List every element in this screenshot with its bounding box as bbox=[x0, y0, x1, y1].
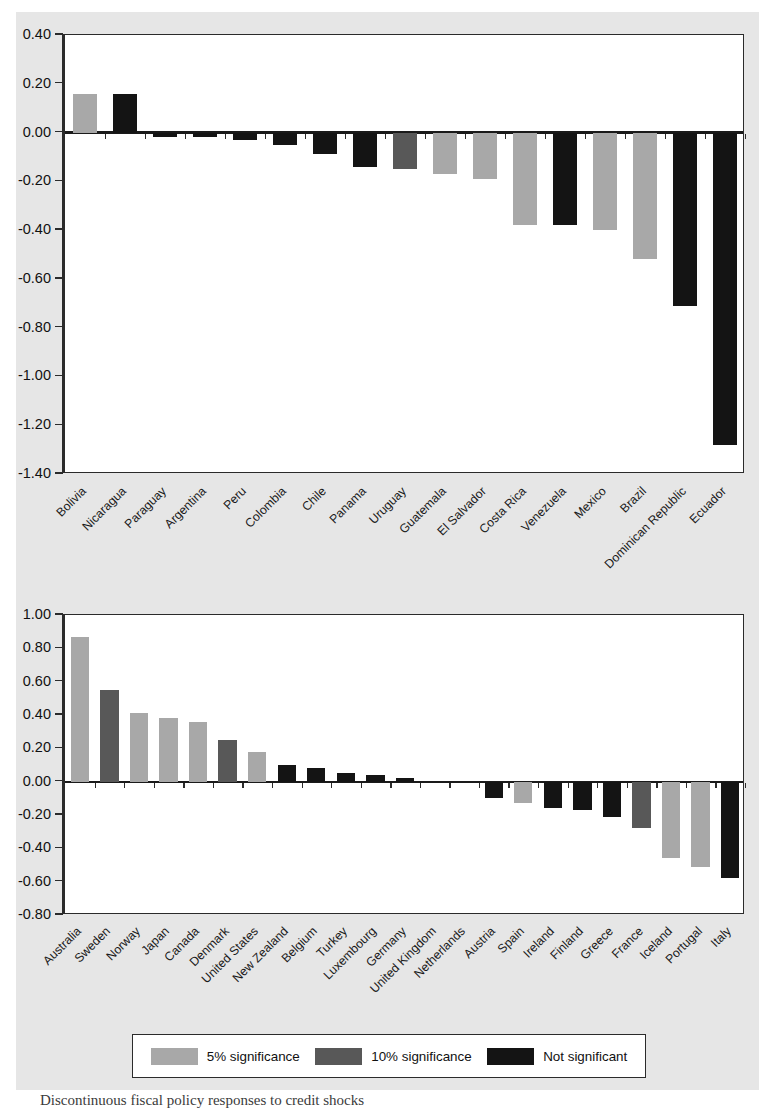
legend-swatch-nosig bbox=[487, 1048, 534, 1065]
y-tick-mark bbox=[55, 847, 63, 848]
chart-panel-developed: Developed countries 1.000.800.600.400.20… bbox=[16, 602, 759, 1004]
y-tick-mark bbox=[55, 647, 63, 648]
bar-new-zealand bbox=[278, 765, 296, 782]
bar-australia bbox=[71, 637, 89, 782]
bar-austria bbox=[485, 782, 503, 799]
y-axis-spine bbox=[62, 614, 64, 914]
y-tick-label: 0.20 bbox=[23, 739, 51, 755]
x-axis-label-netherlands: Netherlands bbox=[34, 924, 468, 1111]
y-tick-label: -0.60 bbox=[18, 270, 51, 286]
x-minor-tick bbox=[745, 783, 746, 788]
x-minor-tick bbox=[145, 134, 146, 139]
bar-finland bbox=[573, 782, 591, 810]
legend-label-sig5: 5% significance bbox=[207, 1049, 300, 1064]
bar-argentina bbox=[193, 133, 218, 138]
bar-ecuador bbox=[713, 133, 738, 445]
bar-turkey bbox=[337, 773, 355, 781]
y-tick-mark bbox=[55, 613, 63, 614]
bar-japan bbox=[159, 718, 177, 781]
bar-united-states bbox=[248, 752, 266, 782]
y-tick-mark bbox=[55, 880, 63, 881]
y-tick-label: 0.40 bbox=[23, 706, 51, 722]
y-tick-mark bbox=[55, 33, 63, 34]
bar-iceland bbox=[662, 782, 680, 859]
x-axis-label-iceland: Iceland bbox=[241, 924, 675, 1111]
y-tick-mark bbox=[55, 747, 63, 748]
bar-el-salvador bbox=[473, 133, 498, 179]
x-minor-tick bbox=[665, 134, 666, 139]
x-minor-tick bbox=[331, 783, 332, 788]
bar-sweden bbox=[100, 690, 118, 782]
y-tick-label: 0.20 bbox=[23, 75, 51, 91]
y-tick-mark bbox=[55, 375, 63, 376]
x-minor-tick bbox=[95, 783, 96, 788]
x-minor-tick bbox=[625, 134, 626, 139]
x-minor-tick bbox=[505, 134, 506, 139]
bar-denmark bbox=[218, 740, 236, 782]
legend-label-nosig: Not significant bbox=[543, 1049, 627, 1064]
x-axis-label-italy: Italy bbox=[300, 924, 734, 1111]
figure-container: LAC 0.400.200.00-0.20-0.40-0.60-0.80-1.0… bbox=[16, 12, 759, 1090]
y-tick-mark bbox=[55, 424, 63, 425]
x-axis-label-greece: Greece bbox=[182, 924, 616, 1111]
x-axis-label-new-zealand: New Zealand bbox=[0, 924, 291, 1111]
bar-guatemala bbox=[433, 133, 458, 174]
bar-paraguay bbox=[153, 133, 178, 138]
x-minor-tick bbox=[449, 783, 450, 788]
x-axis-label-ireland: Ireland bbox=[123, 924, 557, 1111]
y-tick-label: 0.00 bbox=[23, 773, 51, 789]
bar-uruguay bbox=[393, 133, 418, 170]
x-minor-tick bbox=[597, 783, 598, 788]
legend-item-sig5: 5% significance bbox=[151, 1048, 300, 1065]
y-tick-label: 0.60 bbox=[23, 673, 51, 689]
figure-caption: Discontinuous fiscal policy responses to… bbox=[40, 1092, 740, 1111]
bar-greece bbox=[603, 782, 621, 817]
x-minor-tick bbox=[545, 134, 546, 139]
legend-label-sig10: 10% significance bbox=[371, 1049, 472, 1064]
bar-panama bbox=[353, 133, 378, 167]
y-tick-mark bbox=[55, 82, 63, 83]
bar-norway bbox=[130, 713, 148, 781]
y-tick-label: -1.20 bbox=[18, 416, 51, 432]
x-minor-tick bbox=[745, 134, 746, 139]
bar-dominican-republic bbox=[673, 133, 698, 306]
y-tick-mark bbox=[55, 813, 63, 814]
x-axis-label-japan: Japan bbox=[0, 924, 172, 1111]
y-tick-label: 0.80 bbox=[23, 639, 51, 655]
bar-nicaragua bbox=[113, 94, 138, 133]
x-minor-tick bbox=[272, 783, 273, 788]
x-minor-tick bbox=[305, 134, 306, 139]
y-tick-label: -0.80 bbox=[18, 906, 51, 922]
y-tick-mark bbox=[55, 277, 63, 278]
bar-peru bbox=[233, 133, 258, 140]
plot-area-lac bbox=[64, 34, 744, 473]
y-tick-label: -0.60 bbox=[18, 873, 51, 889]
x-axis-label-sweden: Sweden bbox=[0, 924, 113, 1111]
x-minor-tick bbox=[385, 134, 386, 139]
y-tick-label: -0.20 bbox=[18, 806, 51, 822]
legend-swatch-sig10 bbox=[315, 1048, 362, 1065]
x-minor-tick bbox=[715, 783, 716, 788]
x-axis-label-denmark: Denmark bbox=[0, 924, 232, 1111]
legend-item-sig10: 10% significance bbox=[315, 1048, 472, 1065]
y-tick-label: -1.00 bbox=[18, 367, 51, 383]
x-minor-tick bbox=[686, 783, 687, 788]
x-axis-label-luxembourg: Luxembourg bbox=[0, 924, 379, 1111]
x-axis-label-australia: Australia bbox=[0, 924, 84, 1111]
bar-mexico bbox=[593, 133, 618, 231]
x-axis-label-portugal: Portugal bbox=[270, 924, 704, 1111]
y-tick-label: -0.80 bbox=[18, 319, 51, 335]
y-tick-mark bbox=[55, 228, 63, 229]
x-minor-tick bbox=[585, 134, 586, 139]
bar-portugal bbox=[691, 782, 709, 867]
y-tick-label: 0.40 bbox=[23, 26, 51, 42]
x-minor-tick bbox=[479, 783, 480, 788]
y-tick-mark bbox=[55, 326, 63, 327]
y-tick-label: 0.00 bbox=[23, 124, 51, 140]
x-minor-tick bbox=[465, 134, 466, 139]
x-minor-tick bbox=[508, 783, 509, 788]
y-tick-mark bbox=[55, 180, 63, 181]
legend-item-nosig: Not significant bbox=[487, 1048, 627, 1065]
x-minor-tick bbox=[242, 783, 243, 788]
x-minor-tick bbox=[185, 134, 186, 139]
